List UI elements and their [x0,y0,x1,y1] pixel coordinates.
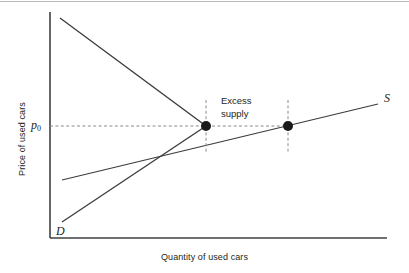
x-axis-title: Quantity of used cars [0,252,409,262]
excess-supply-line-2: supply [221,107,252,120]
supply-quantity-point [283,121,293,131]
demand-curve-label: D [56,224,65,239]
excess-supply-line-1: Excess [221,94,252,107]
chart-figure: Quantity of used cars Price of used cars… [0,0,409,273]
y-axis-title: Price of used cars [17,69,27,209]
supply-curve-label: S [384,91,390,106]
demand-quantity-point [201,121,211,131]
supply-curve [62,104,378,180]
excess-supply-annotation: Excess supply [221,94,252,120]
price-subscript: 0 [37,124,41,133]
demand-curve [60,18,206,222]
price-level-tick-label: p0 [31,118,41,133]
